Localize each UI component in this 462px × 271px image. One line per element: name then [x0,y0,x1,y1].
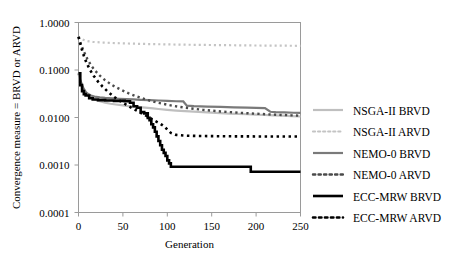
chart-svg: 1.00000.10000.01000.00100.0001 050100150… [0,0,462,271]
x-tick-label: 100 [159,220,176,232]
y-tick-label: 0.0010 [39,159,70,171]
y-tick-label: 1.0000 [39,17,70,29]
series-group [79,37,301,172]
legend-group: NSGA-II BRVDNSGA-II ARVDNEMO-0 BRVDNEMO-… [313,105,441,225]
legend-label-nemo-0-brvd: NEMO-0 BRVD [353,148,430,160]
legend-label-nemo-0-arvd: NEMO-0 ARVD [353,169,430,181]
series-line-nemo-0-brvd [79,73,301,113]
x-axis-title: Generation [165,238,214,250]
legend-label-nsga-ii-brvd: NSGA-II BRVD [353,105,430,117]
x-tick-label: 50 [117,220,129,232]
y-tick-label: 0.1000 [39,64,70,76]
series-line-ecc-mrw-arvd [79,37,301,137]
series-line-ecc-mrw-brvd [79,73,301,171]
x-tick-label: 0 [76,220,82,232]
x-tick-label: 150 [203,220,220,232]
x-tick-labels-group: 050100150200250 [76,220,310,232]
plot-frame-group [79,23,301,213]
y-tick-label: 0.0100 [39,112,70,124]
y-axis-title: Convergence measure = BRVD or ARVD [10,26,22,209]
convergence-chart-figure: 1.00000.10000.01000.00100.0001 050100150… [0,0,462,271]
series-line-nsga-ii-arvd [79,37,301,46]
axis-ticks-group [75,23,301,217]
y-tick-labels-group: 1.00000.10000.01000.00100.0001 [39,17,70,219]
x-tick-label: 250 [292,220,309,232]
legend-label-nsga-ii-arvd: NSGA-II ARVD [353,126,430,138]
y-tick-label: 0.0001 [39,207,69,219]
legend-label-ecc-mrw-brvd: ECC-MRW BRVD [353,191,441,203]
x-tick-label: 200 [248,220,265,232]
legend-label-ecc-mrw-arvd: ECC-MRW ARVD [353,212,441,224]
plot-area-frame [79,23,301,213]
